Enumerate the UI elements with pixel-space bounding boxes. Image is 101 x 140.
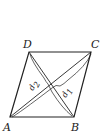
vertex-label-d: D [22, 38, 32, 51]
vertex-label-a: A [2, 121, 11, 134]
rhombus-diagram: D C A B d 2 d 1 [0, 0, 101, 140]
vertex-label-c: C [91, 38, 100, 51]
vertex-label-b: B [70, 121, 79, 134]
diagonal-ac [10, 52, 91, 117]
d1-measure-bracket [12, 54, 91, 117]
